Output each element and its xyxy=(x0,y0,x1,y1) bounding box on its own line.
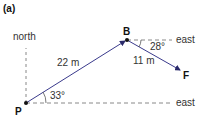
angle-arc-p xyxy=(43,92,46,103)
east-label-top: east xyxy=(176,35,195,45)
point-p-label: P xyxy=(15,107,22,117)
distance-pb-label: 22 m xyxy=(57,58,79,68)
east-label-bottom: east xyxy=(176,98,195,108)
panel-label: (a) xyxy=(3,4,15,14)
angle-b-label: 28° xyxy=(150,42,165,52)
vector-pb xyxy=(26,41,125,103)
point-p-dot xyxy=(24,101,28,105)
point-b-dot xyxy=(125,38,129,42)
north-label: north xyxy=(13,32,36,42)
angle-p-label: 33° xyxy=(50,91,65,101)
point-f-label: F xyxy=(183,71,189,81)
distance-bf-label: 11 m xyxy=(133,56,155,66)
angle-arc-b xyxy=(139,40,141,47)
point-b-label: B xyxy=(123,27,130,37)
